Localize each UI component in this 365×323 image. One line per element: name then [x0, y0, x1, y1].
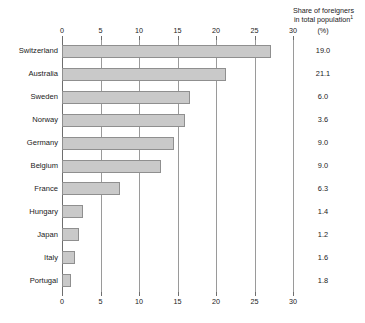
- x-tick-label-30: 30: [283, 297, 303, 306]
- x-tick-label-20: 20: [206, 26, 226, 35]
- x-tick-label-10: 10: [129, 297, 149, 306]
- bar-portugal: [62, 274, 71, 287]
- category-label-sweden: Sweden: [0, 92, 58, 101]
- tickmark-0: [62, 292, 63, 296]
- bar-belgium: [62, 160, 161, 173]
- tickmark-20: [216, 292, 217, 296]
- plot-area: [62, 40, 293, 292]
- category-label-hungary: Hungary: [0, 207, 58, 216]
- gridline-30: [293, 40, 294, 292]
- share-value-japan: 1.2: [300, 230, 346, 239]
- tickmark-25: [255, 36, 256, 40]
- x-tick-label-5: 5: [91, 297, 111, 306]
- category-label-portugal: Portugal: [0, 276, 58, 285]
- bar-france: [62, 182, 120, 195]
- tickmark-0: [62, 36, 63, 40]
- tickmark-30: [293, 36, 294, 40]
- share-value-norway: 3.6: [300, 115, 346, 124]
- x-axis-top-tick-labels: 051015202530: [0, 26, 365, 36]
- bar-norway: [62, 114, 185, 127]
- share-value-portugal: 1.8: [300, 276, 346, 285]
- x-axis-bottom-tick-labels: 051015202530: [0, 297, 365, 307]
- right-column-header-line2: in total population: [294, 15, 350, 24]
- category-label-france: France: [0, 184, 58, 193]
- right-column-header: Share of foreigners in total population1: [282, 7, 365, 24]
- tickmark-5: [101, 292, 102, 296]
- x-tick-label-30: 30: [283, 26, 303, 35]
- bar-australia: [62, 68, 226, 81]
- x-tick-label-0: 0: [52, 26, 72, 35]
- share-value-sweden: 6.0: [300, 92, 346, 101]
- share-value-column: 19.021.16.03.69.09.06.31.41.21.61.8: [300, 40, 346, 292]
- x-tick-label-25: 25: [245, 297, 265, 306]
- share-value-france: 6.3: [300, 184, 346, 193]
- category-label-germany: Germany: [0, 138, 58, 147]
- share-value-belgium: 9.0: [300, 161, 346, 170]
- share-value-switzerland: 19.0: [300, 46, 346, 55]
- bar-hungary: [62, 205, 83, 218]
- bar-italy: [62, 251, 75, 264]
- category-label-italy: Italy: [0, 253, 58, 262]
- tickmark-20: [216, 36, 217, 40]
- bar-japan: [62, 228, 79, 241]
- tickmark-5: [101, 36, 102, 40]
- x-tick-label-0: 0: [52, 297, 72, 306]
- bar-germany: [62, 137, 174, 150]
- category-label-switzerland: Switzerland: [0, 46, 58, 55]
- tickmark-15: [178, 36, 179, 40]
- x-tick-label-5: 5: [91, 26, 111, 35]
- y-axis-category-labels: SwitzerlandAustraliaSwedenNorwayGermanyB…: [0, 40, 58, 292]
- x-tick-label-15: 15: [168, 26, 188, 35]
- x-tick-label-25: 25: [245, 26, 265, 35]
- tickmark-30: [293, 292, 294, 296]
- footnote-superscript: 1: [350, 13, 353, 19]
- share-value-australia: 21.1: [300, 69, 346, 78]
- x-tick-label-20: 20: [206, 297, 226, 306]
- x-tick-label-15: 15: [168, 297, 188, 306]
- tickmark-10: [139, 292, 140, 296]
- tickmark-10: [139, 36, 140, 40]
- category-label-japan: Japan: [0, 230, 58, 239]
- category-label-australia: Australia: [0, 69, 58, 78]
- bar-sweden: [62, 91, 190, 104]
- tickmark-25: [255, 292, 256, 296]
- bar-switzerland: [62, 45, 271, 58]
- share-value-germany: 9.0: [300, 138, 346, 147]
- foreigners-share-bar-chart: Share of foreigners in total population1…: [0, 0, 365, 323]
- share-value-hungary: 1.4: [300, 207, 346, 216]
- tickmark-15: [178, 292, 179, 296]
- share-value-italy: 1.6: [300, 253, 346, 262]
- category-label-belgium: Belgium: [0, 161, 58, 170]
- category-label-norway: Norway: [0, 115, 58, 124]
- gridline-25: [255, 40, 256, 292]
- x-tick-label-10: 10: [129, 26, 149, 35]
